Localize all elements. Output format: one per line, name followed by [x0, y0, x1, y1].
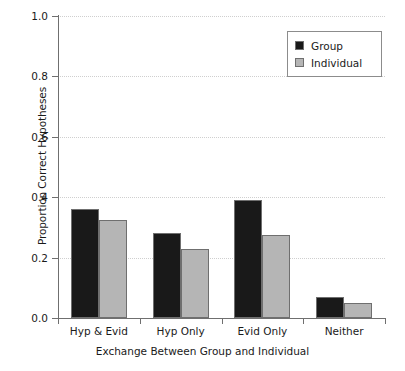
legend-item-individual[interactable]: Individual — [295, 54, 374, 71]
legend-label-group: Group — [311, 40, 343, 52]
x-axis-tick — [58, 318, 59, 324]
x-axis-tick-label: Hyp & Evid — [70, 325, 128, 337]
chart-legend: Group Individual — [287, 31, 382, 77]
x-axis-tick — [303, 318, 304, 324]
x-axis-tick — [222, 318, 223, 324]
gray-square-swatch-icon — [295, 58, 304, 67]
bar-group-evid-only — [234, 200, 262, 318]
bar-individual-hyp-only — [181, 249, 209, 318]
y-axis-tick-label: 0.6 — [14, 131, 48, 143]
y-axis-tick-label: 0.0 — [14, 312, 48, 324]
bar-group-hyp-evid — [71, 209, 99, 318]
x-axis-tick-label: Neither — [325, 325, 364, 337]
x-axis-tick — [140, 318, 141, 324]
black-square-swatch-icon — [295, 41, 304, 50]
x-axis-tick-label: Evid Only — [237, 325, 287, 337]
x-axis-tick-label: Hyp Only — [157, 325, 205, 337]
legend-label-individual: Individual — [311, 57, 362, 69]
bar-individual-hyp-evid — [99, 220, 127, 318]
x-axis-title: Exchange Between Group and Individual — [0, 345, 405, 357]
legend-item-group[interactable]: Group — [295, 37, 374, 54]
bar-individual-neither — [344, 303, 372, 318]
y-axis-tick-label: 0.8 — [14, 70, 48, 82]
bar-individual-evid-only — [262, 235, 290, 318]
y-axis-tick-label: 0.4 — [14, 191, 48, 203]
y-axis-tick-label: 0.2 — [14, 252, 48, 264]
bar-group-neither — [316, 297, 344, 318]
y-axis-tick-label: 1.0 — [14, 10, 48, 22]
bar-chart-figure: Proportion Correct Hypotheses 0.00.20.40… — [0, 0, 405, 371]
bar-group-hyp-only — [153, 233, 181, 318]
x-axis-tick — [385, 318, 386, 324]
